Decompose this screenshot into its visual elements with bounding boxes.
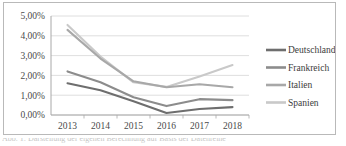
legend-label-italien: Italien [288,80,313,90]
x-axis-tick-label: 2014 [91,121,110,131]
figure-caption: Abb. 1: Darstellung der eigenen Berechnu… [2,138,342,144]
legend-label-spanien: Spanien [288,98,319,108]
legend-label-deutschland: Deutschland [288,45,335,55]
x-axis-tick-label: 2013 [58,121,77,131]
y-axis-tick-label: 3,00% [20,51,45,61]
series-line-deutschland [68,83,233,113]
legend-label-frankreich: Frankreich [288,63,329,73]
x-axis-tick-label: 2015 [124,121,143,131]
x-axis-tick-label: 2018 [223,121,242,131]
y-axis-tick-label: 5,00% [20,11,45,21]
x-axis-tick-label: 2016 [157,121,176,131]
chart-frame: 0,00%1,00%2,00%3,00%4,00%5,00%2013201420… [3,2,336,135]
y-axis-tick-label: 1,00% [20,91,45,101]
x-axis-tick-label: 2017 [190,121,209,131]
y-axis-tick-label: 0,00% [20,110,45,120]
y-axis-tick-label: 2,00% [20,71,45,81]
y-axis-tick-label: 4,00% [20,31,45,41]
line-chart: 0,00%1,00%2,00%3,00%4,00%5,00%2013201420… [4,3,335,134]
figure-caption-text: Abb. 1: Darstellung der eigenen Berechnu… [2,138,342,142]
